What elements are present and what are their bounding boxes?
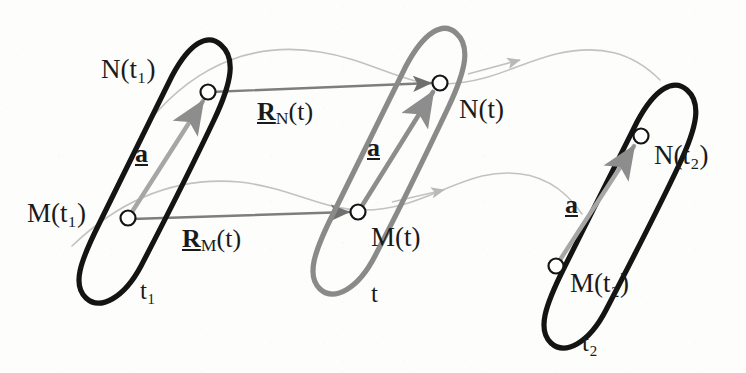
label-R-M-argument: (t) [217, 224, 242, 253]
label-R-N: RN(t) [257, 99, 313, 128]
label-M-t: M(t) [371, 224, 421, 251]
label-R-N-subscript: N [276, 108, 289, 128]
label-N-t1: N(t₁) [101, 56, 155, 83]
label-R-N-symbol: R [257, 97, 276, 126]
label-R-N-argument: (t) [289, 97, 314, 126]
label-R-M-subscript: M [201, 235, 217, 255]
node-M-t1 [121, 211, 136, 226]
label-N-t2: N(t₂) [654, 142, 708, 169]
label-a-t2: a [565, 192, 578, 218]
diagram-figure: N(t₁) M(t₁) t₁ N(t) M(t) t N(t₂) M(t₂) t… [0, 0, 746, 373]
node-M-t2 [549, 259, 564, 274]
label-M-t2: M(t₂) [570, 270, 629, 297]
label-t2: t₂ [582, 330, 598, 355]
label-t: t [371, 281, 378, 306]
node-N-t [433, 76, 448, 91]
node-N-t2 [634, 129, 649, 144]
label-M-t1: M(t₁) [27, 200, 86, 227]
label-a-t: a [367, 135, 380, 161]
label-a-t1: a [135, 141, 148, 167]
node-M-t [351, 205, 366, 220]
node-N-t1 [201, 85, 216, 100]
label-t1: t₁ [140, 278, 156, 303]
label-R-M: RM(t) [182, 226, 241, 255]
label-N-t: N(t) [459, 96, 504, 123]
label-R-M-symbol: R [182, 224, 201, 253]
